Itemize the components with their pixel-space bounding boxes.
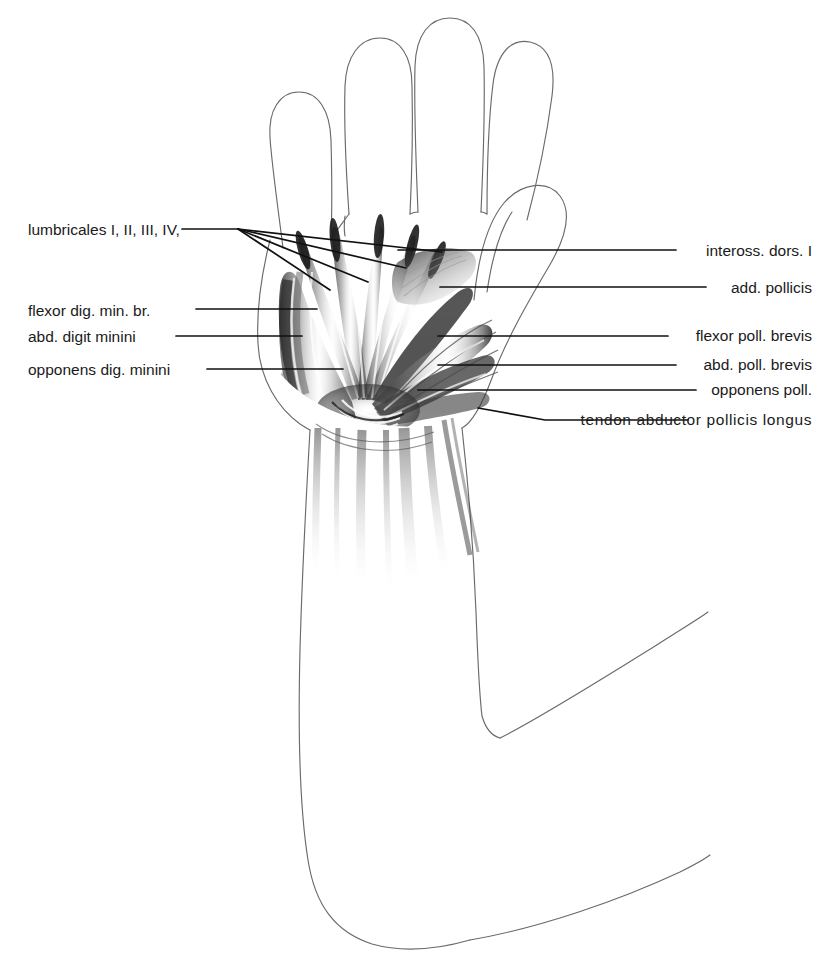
middle-finger-outline	[415, 18, 485, 212]
index-finger-outline	[345, 38, 413, 214]
label-lumbricales: lumbricales I, II, III, IV,	[28, 222, 180, 238]
palm-musculature	[276, 214, 498, 436]
label-opponens-dig-minini: opponens dig. minini	[28, 362, 170, 378]
label-tendon-abductor-pollicis-longus: tendon abductor pollicis longus	[581, 412, 812, 428]
label-inteross-dors-i: inteross. dors. I	[706, 243, 812, 259]
label-abd-poll-brevis: abd. poll. brevis	[703, 357, 812, 373]
label-opponens-poll: opponens poll.	[711, 382, 812, 398]
thumb-outline	[462, 185, 566, 428]
ring-finger-outline	[487, 41, 553, 220]
anatomical-figure: lumbricales I, II, III, IV, flexor dig. …	[0, 0, 826, 972]
hand-anatomy-illustration	[0, 0, 826, 972]
label-abd-digit-minini: abd. digit minini	[28, 329, 136, 345]
label-flexor-poll-brevis: flexor poll. brevis	[696, 328, 812, 344]
label-flexor-dig-min-br: flexor dig. min. br.	[28, 303, 150, 319]
wrist-crease	[316, 424, 434, 450]
label-add-pollicis: add. pollicis	[731, 280, 812, 296]
forearm-shading	[316, 418, 478, 596]
little-finger-outline	[270, 92, 332, 248]
